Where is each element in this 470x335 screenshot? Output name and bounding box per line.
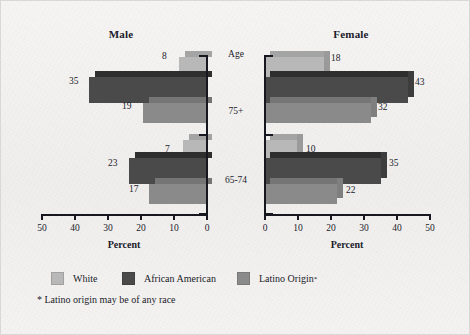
panel-title-male: Male	[61, 28, 181, 40]
value-label-male-75plus-latino: 19	[122, 101, 132, 111]
axis-tick	[297, 214, 299, 220]
axis-tick	[266, 134, 273, 136]
bar-end-cap	[324, 51, 330, 71]
value-label-female-65-74-african-american: 35	[389, 158, 399, 168]
legend-swatch-latino-origin	[237, 272, 250, 285]
bar-end-cap	[381, 152, 387, 178]
x-tick-label-female: 0	[252, 223, 278, 233]
axis-tick	[396, 214, 398, 220]
x-tick-label-male: 20	[128, 223, 154, 233]
axis-tick	[363, 214, 365, 220]
value-label-male-75plus-white: 8	[162, 51, 167, 61]
x-tick-label-female: 10	[285, 223, 311, 233]
vertical-axis-male	[206, 55, 208, 215]
axis-tick	[266, 55, 273, 57]
legend-label-african-american: African American	[144, 273, 216, 284]
x-axis-male	[41, 214, 208, 216]
x-axis-female	[264, 214, 431, 216]
axis-tick	[107, 214, 109, 220]
chart-figure: Male Female Age 75+ 65-74 8 35 19	[0, 0, 470, 335]
x-tick-label-male: 0	[194, 223, 220, 233]
value-label-male-65-74-latino: 17	[129, 184, 139, 194]
value-label-female-65-74-latino: 22	[346, 185, 356, 195]
bar-end-cap	[297, 134, 303, 152]
legend-label-white: White	[73, 273, 97, 284]
axis-tick	[74, 214, 76, 220]
bar-female-65-74-african-american	[264, 152, 381, 178]
legend-swatch-white	[51, 272, 64, 285]
x-tick-label-female: 40	[384, 223, 410, 233]
x-tick-label-female: 50	[417, 223, 443, 233]
bar-front-face	[143, 103, 206, 123]
x-tick-label-male: 40	[62, 223, 88, 233]
bar-male-65-74-white	[183, 134, 206, 152]
bar-female-75plus-latino	[264, 97, 371, 117]
legend-swatch-african-american	[122, 272, 135, 285]
legend-item-african-american: African American	[122, 272, 216, 285]
axis-tick	[206, 214, 208, 220]
panel-title-female: Female	[291, 28, 411, 40]
chart-footnote: * Latino origin may be of any race	[37, 294, 176, 305]
axis-tick	[41, 214, 43, 220]
axis-tick	[429, 214, 431, 220]
axis-tick	[264, 214, 266, 220]
legend-item-white: White	[51, 272, 97, 285]
axis-tick	[199, 134, 206, 136]
axis-tick	[173, 214, 175, 220]
bar-end-cap	[408, 71, 414, 97]
bar-front-face	[149, 184, 206, 204]
bar-female-75plus-white	[264, 51, 324, 71]
x-tick-label-male: 30	[95, 223, 121, 233]
value-label-female-75plus-white: 18	[331, 53, 341, 63]
bar-end-cap	[337, 178, 343, 198]
bar-front-face	[264, 184, 337, 204]
axis-tick	[140, 214, 142, 220]
x-tick-label-female: 20	[318, 223, 344, 233]
x-tick-label-male: 10	[161, 223, 187, 233]
value-label-male-65-74-african-american: 23	[108, 158, 118, 168]
legend-footnote-marker: *	[314, 275, 318, 283]
x-tick-label-male: 50	[29, 223, 55, 233]
bar-front-face	[264, 103, 371, 123]
bar-female-65-74-white	[264, 134, 297, 152]
x-axis-title-male: Percent	[64, 239, 184, 250]
legend-item-latino-origin: Latino Origin *	[237, 272, 317, 285]
axis-tick	[330, 214, 332, 220]
value-label-male-75plus-african-american: 35	[69, 76, 79, 86]
bar-male-75plus-latino	[143, 97, 206, 117]
age-axis-header: Age	[206, 49, 266, 59]
bar-male-75plus-white	[179, 51, 206, 71]
bar-female-65-74-latino	[264, 178, 337, 198]
x-tick-label-female: 30	[351, 223, 377, 233]
axis-tick	[199, 55, 206, 57]
bar-female-75plus-african-american	[264, 71, 408, 97]
legend-label-latino-origin: Latino Origin	[259, 273, 314, 284]
bar-male-65-74-latino	[149, 178, 206, 198]
value-label-female-75plus-african-american: 43	[415, 77, 425, 87]
x-axis-title-female: Percent	[287, 239, 407, 250]
value-label-female-75plus-latino: 32	[378, 102, 388, 112]
age-group-65-74: 65-74	[206, 175, 266, 185]
bar-male-75plus-african-american	[89, 71, 206, 97]
bar-male-65-74-african-american	[129, 152, 206, 178]
bar-end-cap	[371, 97, 377, 117]
plot-area: Male Female Age 75+ 65-74 8 35 19	[1, 1, 470, 335]
age-group-75plus: 75+	[206, 106, 266, 116]
